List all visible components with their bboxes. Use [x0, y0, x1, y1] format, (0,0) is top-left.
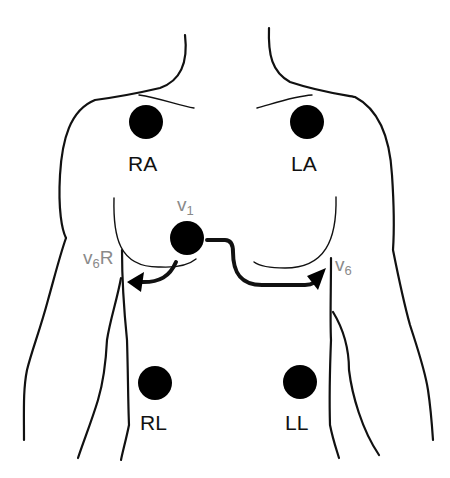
body-outline	[0, 0, 450, 478]
electrode-v1	[170, 221, 204, 255]
electrode-rl	[138, 366, 172, 400]
ecg-diagram: RA LA RL LL V1 V6R V6	[0, 0, 450, 478]
electrode-la	[290, 105, 324, 139]
label-v6r: V6R	[83, 248, 113, 270]
label-ra: RA	[128, 153, 157, 174]
label-ll: LL	[285, 412, 308, 433]
label-rl: RL	[140, 412, 167, 433]
label-la: LA	[291, 153, 317, 174]
electrode-ll	[283, 365, 317, 399]
electrode-ra	[129, 105, 163, 139]
label-v6: V6	[335, 255, 352, 277]
label-v1: V1	[177, 195, 194, 217]
